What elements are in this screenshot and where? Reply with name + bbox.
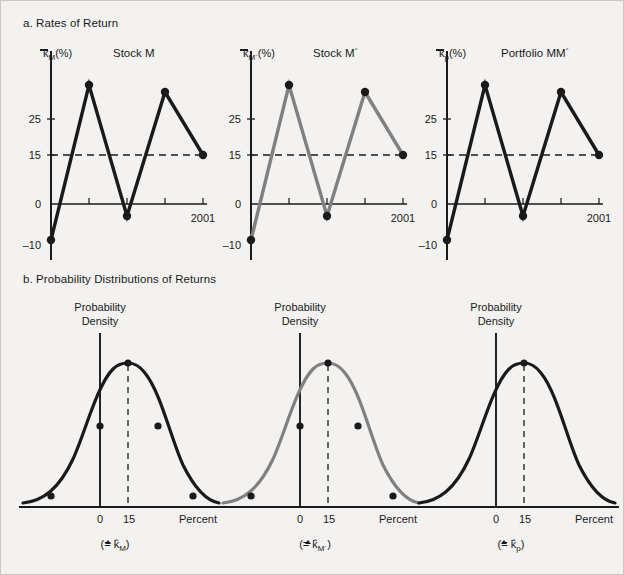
ytick-label-15: 15	[29, 149, 41, 161]
dist-point	[520, 359, 527, 366]
ytick-label-15: 15	[425, 149, 437, 161]
ytick-label-neg10: –10	[23, 239, 41, 251]
dist-point	[296, 422, 303, 429]
data-point	[519, 212, 527, 220]
dist-point	[47, 492, 54, 499]
xtick-label-2001: 2001	[391, 212, 415, 224]
ytick-label-0: 0	[35, 198, 41, 210]
chart-dist-stock-m-prime: Probability Density 0 15 Percent (= k̂M´…	[215, 293, 425, 568]
data-point	[323, 212, 331, 220]
overbar-k-p	[436, 49, 444, 51]
data-point	[361, 88, 369, 96]
chart-dist-portfolio-mm-prime: Probability Density 0 15 Percent (= k̂p)	[411, 293, 621, 568]
dist-curve	[23, 363, 219, 503]
dist-xtick-label-15: 15	[519, 513, 531, 525]
dist-title-line2: Density	[478, 315, 515, 327]
y-axis-label-unit: (%)	[449, 47, 466, 59]
ytick-label-25: 25	[229, 113, 241, 125]
data-point	[161, 88, 169, 96]
dist-footnote-suffix: )	[327, 538, 331, 550]
dist-title-line1: Probability	[274, 301, 326, 313]
hat-k-m	[105, 540, 111, 544]
y-axis-label-unit: (%)	[55, 47, 72, 59]
dist-point	[389, 492, 396, 499]
ytick-label-15: 15	[229, 149, 241, 161]
dist-point	[324, 359, 331, 366]
chart-rates-stock-m: k̄M(%) Stock M 25 15 0 –10 2001	[19, 35, 224, 260]
xtick-label-2001: 2001	[191, 212, 215, 224]
data-point	[481, 81, 489, 89]
dist-xtick-label-0: 0	[297, 513, 303, 525]
dist-footnote-sub: M´	[318, 544, 327, 553]
section-a-title: a. Rates of Return	[23, 17, 118, 29]
y-axis-label-unit: (%)	[258, 47, 275, 59]
dist-title-line2: Density	[282, 315, 319, 327]
dist-xtick-label-15: 15	[123, 513, 135, 525]
dist-point	[96, 422, 103, 429]
dist-curve	[419, 363, 615, 503]
dist-x-axis-label: Percent	[179, 513, 217, 525]
data-point	[47, 236, 55, 244]
dist-x-axis-label: Percent	[575, 513, 613, 525]
dist-footnote-suffix: )	[126, 538, 130, 550]
xtick-label-2001: 2001	[587, 212, 611, 224]
ytick-label-25: 25	[29, 113, 41, 125]
dist-stock-m-svg: Probability Density 0 15 Percent (= k̂M)	[15, 293, 225, 568]
plot-title: Stock M´	[313, 47, 358, 59]
data-point	[85, 81, 93, 89]
dist-point	[247, 492, 254, 499]
ytick-label-neg10: –10	[223, 239, 241, 251]
data-point	[247, 236, 255, 244]
figure-container: a. Rates of Return b. Probability Distri…	[0, 0, 624, 575]
data-point	[399, 151, 407, 159]
dist-title-line1: Probability	[74, 301, 126, 313]
data-point	[443, 236, 451, 244]
data-point	[123, 212, 131, 220]
ytick-label-neg10: –10	[419, 239, 437, 251]
dist-portfolio-svg: Probability Density 0 15 Percent (= k̂p)	[411, 293, 621, 568]
overbar-k-m-prime	[240, 49, 248, 51]
plot-title: Stock M	[113, 47, 155, 59]
dist-xtick-label-15: 15	[323, 513, 335, 525]
data-point	[199, 151, 207, 159]
overbar-k-m	[40, 49, 48, 51]
dist-footnote: (= k̂M´)	[299, 538, 331, 553]
dist-point	[154, 422, 161, 429]
rates-stock-m-prime-svg: k̄M´(%) Stock M´ 25 15 0 –10 2001	[219, 35, 424, 260]
dist-point	[124, 359, 131, 366]
dist-curve	[223, 363, 419, 503]
dist-point	[354, 422, 361, 429]
plot-title: Portfolio MM´	[501, 47, 569, 59]
dist-xtick-label-0: 0	[493, 513, 499, 525]
ytick-label-0: 0	[431, 198, 437, 210]
chart-rates-portfolio-mm-prime: k̄p(%) Portfolio MM´ 25 15 0 –10 2001	[415, 35, 620, 260]
ytick-label-0: 0	[235, 198, 241, 210]
chart-rates-stock-m-prime: k̄M´(%) Stock M´ 25 15 0 –10 2001	[219, 35, 424, 260]
rates-portfolio-svg: k̄p(%) Portfolio MM´ 25 15 0 –10 2001	[415, 35, 620, 260]
data-point	[595, 151, 603, 159]
dist-title-line1: Probability	[470, 301, 522, 313]
data-point	[285, 81, 293, 89]
dist-xtick-label-0: 0	[97, 513, 103, 525]
hat-k-m-prime	[305, 540, 311, 544]
dist-stock-m-prime-svg: Probability Density 0 15 Percent (= k̂M´…	[215, 293, 425, 568]
dist-point	[189, 492, 196, 499]
chart-dist-stock-m: Probability Density 0 15 Percent (= k̂M)	[15, 293, 225, 568]
dist-footnote-suffix: )	[521, 538, 525, 550]
rates-stock-m-svg: k̄M(%) Stock M 25 15 0 –10 2001	[19, 35, 224, 260]
dist-title-line2: Density	[82, 315, 119, 327]
y-axis-label-sub: M´	[249, 53, 258, 62]
section-b-title: b. Probability Distributions of Returns	[23, 273, 216, 285]
data-point	[557, 88, 565, 96]
ytick-label-25: 25	[425, 113, 437, 125]
hat-k-p	[501, 540, 507, 544]
